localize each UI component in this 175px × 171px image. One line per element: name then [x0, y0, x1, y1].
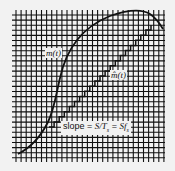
delta-modulation-figure — [0, 0, 175, 171]
slope-term1: S/T — [95, 121, 107, 131]
slope-eq: = — [109, 121, 119, 131]
grid — [12, 10, 165, 162]
signal-label: m(t) — [45, 48, 62, 58]
slope-annotation: slope = S/Ts = Sfs — [61, 121, 131, 135]
slope-prefix: slope = — [63, 121, 95, 131]
slope-term2-sub: s — [126, 127, 128, 133]
staircase-label: m̂(t) — [110, 70, 127, 80]
